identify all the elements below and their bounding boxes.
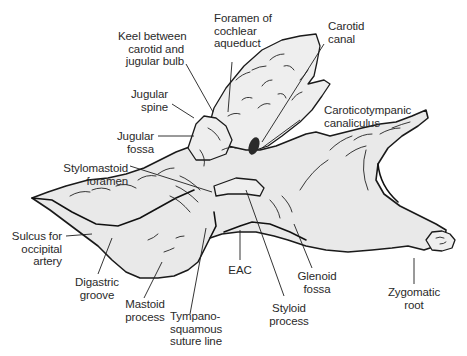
label-keel-carotid-jugular: Keel between carotid and jugular bulb: [118, 30, 184, 68]
zygomatic-tip: [426, 231, 455, 251]
label-mastoid-process: Mastoid process: [116, 298, 174, 323]
label-carotid-canal: Carotid canal: [328, 20, 364, 45]
label-stylomastoid-foramen: Stylomastoid foramen: [62, 162, 128, 187]
temporal-bone-figure: Foramen of cochlear aqueduct Carotid can…: [0, 0, 467, 356]
label-caroticotympanic-canaliculus: Caroticotympanic canaliculus: [324, 104, 411, 129]
label-tympanosquamous-suture-line: Tympano- squamous suture line: [170, 310, 222, 348]
label-jugular-spine: Jugular spine: [118, 88, 168, 113]
label-foramen-cochlear-aqueduct: Foramen of cochlear aqueduct: [214, 12, 272, 50]
label-zygomatic-root: Zygomatic root: [382, 286, 446, 311]
label-jugular-fossa: Jugular fossa: [100, 130, 154, 155]
label-eac: EAC: [224, 264, 256, 277]
label-sulcus-occipital-artery: Sulcus for occipital artery: [4, 230, 62, 268]
label-glenoid-fossa: Glenoid fossa: [290, 270, 344, 295]
label-styloid-process: Styloid process: [262, 302, 316, 327]
